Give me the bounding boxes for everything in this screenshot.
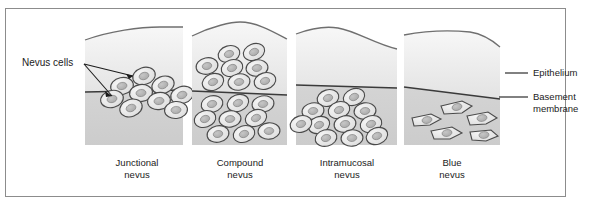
panel-label-intramucosal: Intramucosal nevus	[299, 157, 395, 180]
panel-label-compound: Compound nevus	[192, 157, 288, 180]
panel-label-blue: Blue nevus	[404, 157, 500, 180]
panel-compound	[192, 22, 287, 145]
callout-basement-membrane: Basement membrane	[533, 91, 578, 114]
panel-blue	[404, 31, 500, 145]
callout-nevus-cells: Nevus cells	[22, 57, 73, 69]
panel-intramucosal	[288, 27, 397, 148]
figure-canvas: Nevus cells Epithelium Basement membrane…	[0, 0, 592, 202]
callout-epithelium: Epithelium	[533, 67, 577, 79]
panel-label-junctional: Junctional nevus	[89, 157, 185, 180]
panel-junctional	[85, 27, 196, 145]
